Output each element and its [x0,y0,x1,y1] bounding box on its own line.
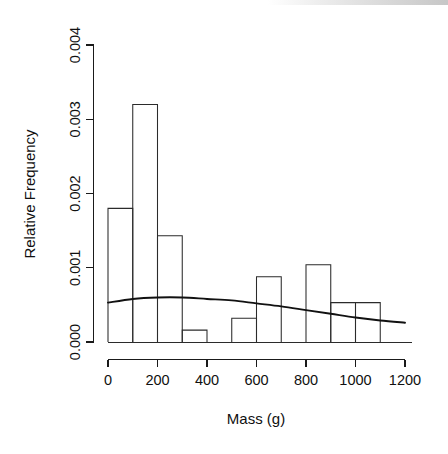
y-axis: 0.0000.0010.0020.0030.004 [67,27,94,360]
y-axis-tick-label: 0.001 [67,250,83,286]
x-axis-title: Mass (g) [227,410,285,427]
y-axis-title: Relative Frequency [21,129,38,259]
x-axis-tick-label: 200 [145,372,169,388]
histogram-bar [158,236,183,342]
y-axis-tick-label: 0.000 [67,324,83,360]
y-axis-tick-label: 0.003 [67,101,83,137]
histogram-bar [356,303,381,342]
x-axis-tick-label: 1200 [389,372,421,388]
x-axis-tick-label: 400 [195,372,219,388]
histogram-bars [108,104,380,342]
histogram-bar [182,330,207,342]
histogram-bar [306,265,331,342]
y-axis-tick-label: 0.002 [67,175,83,211]
histogram-bar [331,303,356,342]
histogram-bar [133,104,158,342]
y-axis-tick-label: 0.004 [67,27,83,63]
histogram-bar [108,208,133,342]
x-axis-tick-label: 600 [244,372,268,388]
x-axis-tick-label: 1000 [339,372,371,388]
histogram-bar [257,277,282,342]
plot-root: 0.0000.0010.0020.0030.004 02004006008001… [0,0,448,454]
histogram-bar [232,318,257,342]
x-axis-tick-label: 0 [104,372,112,388]
x-axis-tick-label: 800 [294,372,318,388]
histogram-chart: 0.0000.0010.0020.0030.004 02004006008001… [0,0,448,454]
x-axis: 020040060080010001200 [104,360,421,389]
